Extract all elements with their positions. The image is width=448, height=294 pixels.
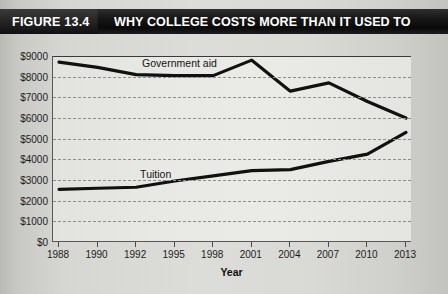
- x-axis-tick-label: 1995: [163, 249, 185, 260]
- gridline: [53, 77, 411, 78]
- x-axis-tick-label: 1998: [201, 249, 223, 260]
- x-axis-tick-label: 1990: [85, 249, 107, 260]
- y-axis-tick-label: $9000: [2, 51, 48, 62]
- line-series-group: [53, 56, 412, 242]
- figure-number: FIGURE 13.4: [0, 9, 98, 34]
- x-axis-tick: [328, 242, 329, 247]
- x-axis-tick: [58, 242, 59, 247]
- x-axis-tick: [405, 242, 406, 247]
- y-axis-tick-label: $1000: [2, 216, 48, 227]
- x-axis-tick-label: 2010: [355, 249, 377, 260]
- x-axis-tick: [251, 242, 252, 247]
- gridline: [53, 97, 411, 98]
- gridline: [53, 180, 411, 181]
- x-axis-tick: [97, 242, 98, 247]
- gridline: [53, 56, 411, 57]
- x-axis-tick: [289, 242, 290, 247]
- gridline: [53, 201, 411, 202]
- x-axis-tick: [366, 242, 367, 247]
- x-axis-tick-label: 1992: [124, 249, 146, 260]
- x-axis-tick-label: 2013: [394, 249, 416, 260]
- x-axis-title: Year: [52, 266, 411, 278]
- gridline: [53, 118, 411, 119]
- y-axis-tick-label: $2000: [2, 195, 48, 206]
- gridline: [53, 221, 411, 222]
- line-government-aid: [59, 60, 406, 118]
- y-axis-tick-label: $3000: [2, 175, 48, 186]
- x-axis-labels: 1988199019921995199820012004200720102013: [52, 249, 411, 263]
- page-title: WHY COLLEGE COSTS MORE THAN IT USED TO: [114, 14, 411, 29]
- y-axis-tick-label: $5000: [2, 133, 48, 144]
- figure-container: FIGURE 13.4 WHY COLLEGE COSTS MORE THAN …: [0, 0, 448, 294]
- series-label-tuition: Tuition: [140, 168, 171, 180]
- x-axis-tick: [212, 242, 213, 247]
- y-axis-tick-label: $0: [2, 237, 48, 248]
- gridline: [53, 139, 411, 140]
- y-axis-tick-label: $8000: [2, 71, 48, 82]
- x-axis-tick-label: 2007: [317, 249, 339, 260]
- y-axis-tick-label: $4000: [2, 154, 48, 165]
- y-axis-tick-label: $7000: [2, 92, 48, 103]
- x-axis-ticks: [52, 242, 411, 248]
- y-axis-labels: $9000$8000$7000$6000$5000$4000$3000$2000…: [0, 56, 48, 242]
- x-axis-tick: [135, 242, 136, 247]
- gridline: [53, 159, 411, 160]
- figure-title-bar: FIGURE 13.4 WHY COLLEGE COSTS MORE THAN …: [0, 9, 448, 34]
- plot-area: Government aid Tuition: [52, 56, 411, 242]
- x-axis-tick-label: 2004: [278, 249, 300, 260]
- y-axis-tick-label: $6000: [2, 113, 48, 124]
- x-axis-tick-label: 1988: [47, 249, 69, 260]
- x-axis-tick-label: 2001: [240, 249, 262, 260]
- series-label-government-aid: Government aid: [142, 57, 217, 69]
- x-axis-tick: [174, 242, 175, 247]
